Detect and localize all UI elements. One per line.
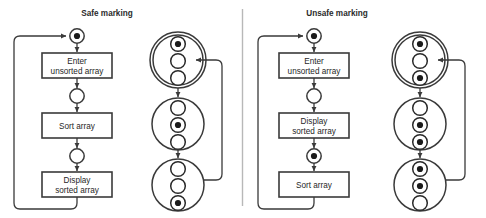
transition-label-line2: unsorted array xyxy=(51,67,105,76)
place-slot-1 xyxy=(171,162,186,177)
state-s3-safe xyxy=(152,159,204,211)
place-p3-unsafe xyxy=(307,149,321,163)
transition-t2-unsafe: Display sorted array xyxy=(279,113,349,138)
transition-label-line1: Sort array xyxy=(59,122,96,131)
place-slot-2 xyxy=(413,54,428,69)
token-dot xyxy=(417,139,423,145)
place-p2-unsafe xyxy=(307,89,321,103)
transition-label-line1: Enter xyxy=(67,57,87,66)
transition-label-line2: unsorted array xyxy=(288,67,342,76)
transition-t2-safe: Sort array xyxy=(42,113,112,138)
token-dot xyxy=(74,33,80,39)
place-slot-3 xyxy=(171,71,186,86)
token-dot xyxy=(175,200,181,206)
place-slot-3 xyxy=(171,135,186,150)
state-s2-safe xyxy=(152,98,204,150)
place-p2-safe xyxy=(70,89,84,103)
transition-label-line1: Enter xyxy=(304,57,324,66)
place-slot-1 xyxy=(171,101,186,116)
state-s2-unsafe xyxy=(394,98,446,150)
place-slot-3 xyxy=(413,196,428,211)
token-dot xyxy=(417,41,423,47)
token-dot xyxy=(175,41,181,47)
place-p3-safe xyxy=(70,149,84,163)
transition-t3-unsafe: Sort array xyxy=(279,172,349,197)
transition-t3-safe: Display sorted array xyxy=(42,172,112,197)
place-slot-2 xyxy=(171,179,186,194)
transition-t1-unsafe: Enter unsorted array xyxy=(279,53,349,78)
transition-label-line2: sorted array xyxy=(55,186,100,195)
panel-title-unsafe: Unsafe marking xyxy=(306,9,367,18)
diagram-canvas: Safe marking Enter unsorted array xyxy=(0,0,486,218)
state-s3-unsafe xyxy=(394,159,446,211)
place-slot-1 xyxy=(413,101,428,116)
token-dot xyxy=(417,122,423,128)
place-slot-2 xyxy=(171,54,186,69)
transition-label-line1: Display xyxy=(64,176,92,185)
figure-root: Safe marking Enter unsorted array xyxy=(0,0,486,218)
token-dot xyxy=(175,122,181,128)
place-p1-safe xyxy=(70,29,84,43)
transition-t1-safe: Enter unsorted array xyxy=(42,53,112,78)
transition-label-line2: sorted array xyxy=(292,127,337,136)
transition-label-line1: Sort array xyxy=(296,181,333,190)
token-dot xyxy=(417,75,423,81)
place-p1-unsafe xyxy=(307,29,321,43)
token-dot xyxy=(311,153,317,159)
panel-title-safe: Safe marking xyxy=(81,9,132,18)
transition-label-line1: Display xyxy=(301,117,329,126)
token-dot xyxy=(417,183,423,189)
token-dot xyxy=(311,33,317,39)
token-dot xyxy=(417,166,423,172)
